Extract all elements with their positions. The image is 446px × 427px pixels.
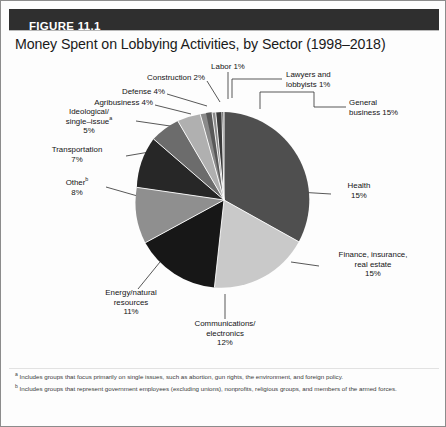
label-labor: Labor 1% <box>199 62 257 72</box>
note-b-text: Includes groups that represent governmen… <box>20 385 397 392</box>
label-finance-insurance-real-estate: Finance, insurance, real estate 15% <box>321 250 425 279</box>
notes-divider <box>9 368 439 369</box>
figure-header-bar: FIGURE 11.1 <box>9 9 439 30</box>
label-other-text: Other <box>66 178 86 187</box>
label-other-value: 8% <box>71 188 82 197</box>
note-b: b Includes groups that represent governm… <box>15 384 433 395</box>
pie-chart-area: Lawyers and lobbyists 1% General busines… <box>1 57 446 367</box>
footnote-marker-b: b <box>85 176 88 182</box>
label-lawyers-lobbyists: Lawyers and lobbyists 1% <box>286 70 356 89</box>
label-ideological-single-issue: Ideological/ single–issuea5% <box>45 107 133 136</box>
label-energy-natural-resources: Energy/natural resources 11% <box>83 288 179 317</box>
note-b-marker: b <box>15 382 18 388</box>
note-a-marker: a <box>15 371 18 377</box>
label-health: Health 15% <box>333 181 385 200</box>
label-ideological-text: Ideological/ single–issue <box>66 107 109 126</box>
label-other: Otherb8% <box>49 178 105 197</box>
label-transportation: Transportation 7% <box>31 145 123 164</box>
figure-notes: a Includes groups that focus primarily o… <box>15 372 433 395</box>
label-communications-electronics: Communications/ electronics 12% <box>177 319 273 348</box>
footnote-marker-a: a <box>109 115 112 121</box>
figure-title: Money Spent on Lobbying Activities, by S… <box>15 36 435 52</box>
label-ideological-value: 5% <box>83 126 94 135</box>
figure-container: FIGURE 11.1 Money Spent on Lobbying Acti… <box>0 0 446 427</box>
label-general-business: General business 15% <box>349 98 435 117</box>
label-defense: Defense 4% <box>81 87 165 97</box>
label-construction: Construction 2% <box>97 73 205 83</box>
note-a-text: Includes groups that focus primarily on … <box>20 373 344 380</box>
note-a: a Includes groups that focus primarily o… <box>15 372 433 383</box>
header-divider <box>9 30 439 31</box>
